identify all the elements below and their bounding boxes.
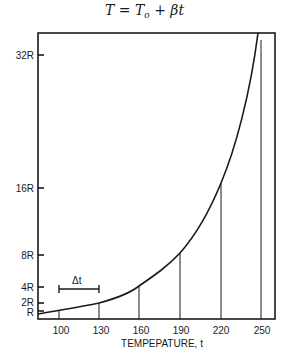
x-label-190: 190 (173, 325, 190, 336)
x-label-250: 250 (254, 325, 271, 336)
y-label-4r: 4R (21, 282, 34, 293)
x-label-220: 220 (213, 325, 230, 336)
y-label-32r: 32R (16, 50, 34, 61)
delta-t-bracket (59, 285, 99, 293)
x-label-160: 160 (133, 325, 150, 336)
delta-t-label: Δt (72, 275, 82, 286)
chart-plot: Δt 32R 16R 8R 4R 2R R 100 130 160 190 22… (0, 0, 289, 354)
y-label-8r: 8R (21, 250, 34, 261)
x-label-100: 100 (53, 325, 70, 336)
y-label-16r: 16R (16, 183, 34, 194)
resistance-curve (38, 33, 258, 314)
x-label-130: 130 (93, 325, 110, 336)
y-label-r: R (27, 307, 34, 318)
x-axis-title: TEMPEPATURE, t (121, 338, 203, 349)
